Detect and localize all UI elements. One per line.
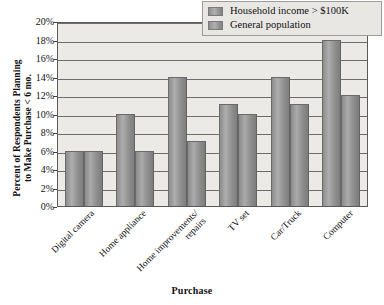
y-axis-tick-label: 8% bbox=[14, 128, 54, 138]
legend-label: General population bbox=[230, 19, 311, 31]
series-1-swatch bbox=[208, 7, 223, 16]
legend-item: Household income > $100K bbox=[208, 4, 377, 18]
bar bbox=[290, 104, 309, 206]
bar bbox=[238, 114, 257, 207]
bar bbox=[135, 151, 154, 207]
x-axis-tick-label: Computer bbox=[321, 208, 355, 242]
x-axis-tick-label: Home appliance bbox=[97, 208, 148, 259]
bar bbox=[322, 40, 341, 207]
bar bbox=[84, 151, 103, 207]
bar-group bbox=[110, 23, 162, 206]
x-axis-tick-label-line: Digital camera bbox=[49, 208, 96, 255]
legend-item: General population bbox=[208, 18, 377, 32]
x-axis-tick-label-line: Computer bbox=[321, 208, 355, 242]
plot-area bbox=[57, 22, 368, 207]
y-axis-tick-label: 20% bbox=[14, 17, 54, 27]
x-axis-tick-label: Car/Truck bbox=[269, 208, 304, 243]
x-axis-tick-label-line: Car/Truck bbox=[269, 208, 304, 243]
y-axis-tick-label: 12% bbox=[14, 91, 54, 101]
y-axis-tick-label: 10% bbox=[14, 110, 54, 120]
series-2-swatch bbox=[208, 21, 223, 30]
bar-group bbox=[316, 23, 368, 206]
bar-group bbox=[161, 23, 213, 206]
x-axis-tick-labels: Digital cameraHome applianceHome improve… bbox=[57, 208, 368, 278]
x-axis-tick-label: Home improvements/repairs bbox=[134, 208, 207, 281]
bar bbox=[219, 104, 238, 206]
bar bbox=[116, 114, 135, 207]
x-axis-title: Purchase bbox=[0, 285, 384, 296]
bar-group bbox=[58, 23, 110, 206]
x-axis-tick-label: TV set bbox=[226, 208, 251, 233]
bar-groups bbox=[58, 23, 367, 206]
legend: Household income > $100KGeneral populati… bbox=[202, 1, 382, 36]
y-axis-tick-label: 14% bbox=[14, 73, 54, 83]
bar bbox=[271, 77, 290, 207]
bar-group bbox=[264, 23, 316, 206]
y-axis-tick-label: 2% bbox=[14, 184, 54, 194]
y-axis-tick-label: 4% bbox=[14, 165, 54, 175]
y-axis-tick-label: 6% bbox=[14, 147, 54, 157]
y-axis-tick-label: 18% bbox=[14, 36, 54, 46]
bar bbox=[341, 95, 360, 206]
bar-group bbox=[213, 23, 265, 206]
bar bbox=[65, 151, 84, 207]
y-axis-tick-labels: 0%2%4%6%8%10%12%14%16%18%20% bbox=[14, 0, 54, 305]
y-axis-tick-label: 16% bbox=[14, 54, 54, 64]
legend-label: Household income > $100K bbox=[230, 5, 349, 17]
bar bbox=[187, 141, 206, 206]
y-axis-tick-label: 0% bbox=[14, 202, 54, 212]
x-axis-tick-label-line: Home appliance bbox=[97, 208, 148, 259]
bar-chart: Percent of Respondents Planning to Make … bbox=[0, 0, 384, 305]
x-axis-tick-label: Digital camera bbox=[49, 208, 96, 255]
bar bbox=[168, 77, 187, 207]
x-axis-tick-label-line: TV set bbox=[226, 208, 251, 233]
